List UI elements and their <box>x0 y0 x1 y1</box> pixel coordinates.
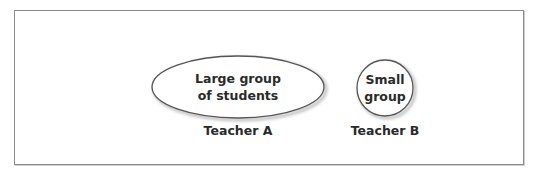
teacher-a-caption: Teacher A <box>178 123 298 138</box>
large-group-label-line-1: Large group <box>178 70 298 87</box>
teacher-b-caption: Teacher B <box>335 123 435 138</box>
large-group-label: Large group of students <box>178 70 298 104</box>
large-group-label-line-2: of students <box>178 87 298 104</box>
small-group-label-line-2: group <box>350 88 420 105</box>
small-group-label: Small group <box>350 71 420 105</box>
small-group-label-line-1: Small <box>350 71 420 88</box>
